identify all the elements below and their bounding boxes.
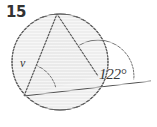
geometry-figure: 15 v 122° [0, 0, 157, 127]
angle-label-122-degrees: 122° [99, 67, 126, 82]
angle-label-v: v [20, 57, 25, 69]
problem-number: 15 [6, 5, 26, 20]
